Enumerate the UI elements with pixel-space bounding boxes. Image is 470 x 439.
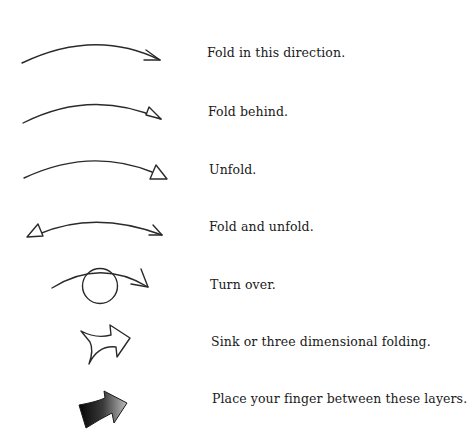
push-arrow-icon [79,391,127,428]
mountain-fold-arrow-icon [23,104,161,123]
valley-fold-arrow-icon [22,45,160,63]
turn-over-arrow-icon [52,269,148,304]
label-fold-in-this-direction: Fold in this direction. [207,45,345,60]
label-unfold: Unfold. [209,162,256,177]
sink-arrow-icon [81,325,130,364]
label-fold-and-unfold: Fold and unfold. [209,219,314,234]
label-turn-over: Turn over. [210,277,276,292]
unfold-arrow-icon [24,161,167,179]
fold-unfold-arrow-icon [27,222,162,237]
label-finger-between-layers: Place your finger between these layers. [212,391,467,406]
label-fold-behind: Fold behind. [208,104,288,119]
label-sink: Sink or three dimensional folding. [211,334,431,349]
